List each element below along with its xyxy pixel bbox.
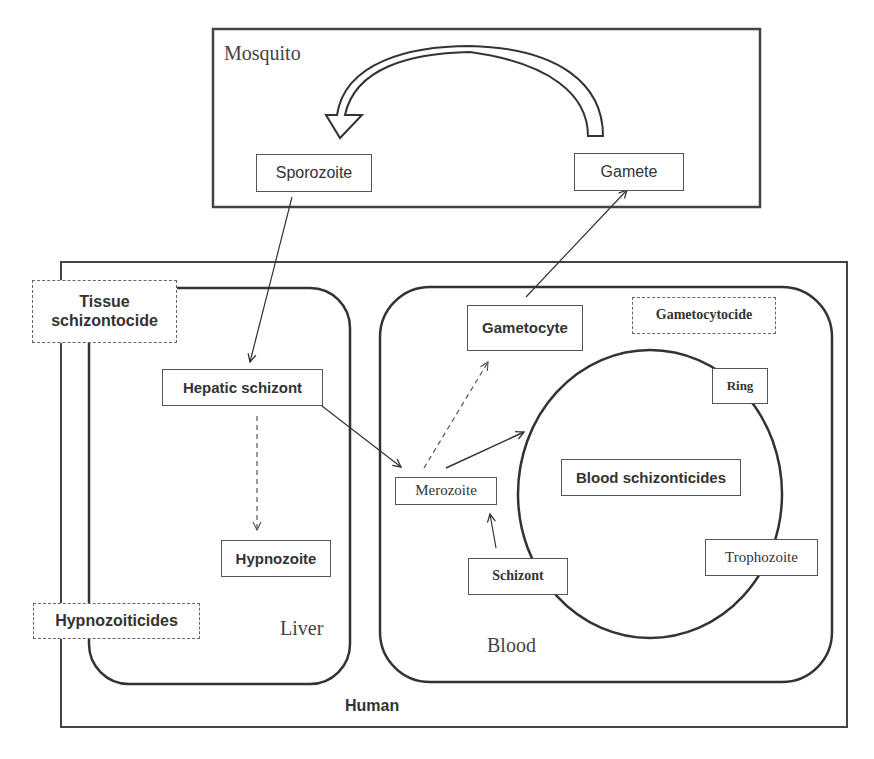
merozoite-node: Merozoite (395, 477, 497, 505)
blood-schizonticides-label: Blood schizonticides (561, 459, 741, 496)
block-arrow-icon (326, 46, 603, 138)
gamete-node: Gamete (574, 153, 684, 191)
malaria-life-cycle-diagram: Mosquito Human Liver Blood Sporozoite Ga… (0, 0, 874, 759)
gametocyte-node: Gametocyte (467, 305, 583, 351)
trophozoite-node: Trophozoite (705, 539, 818, 576)
hypnozoiticides-label: Hypnozoiticides (33, 603, 200, 639)
sporozoite-node: Sporozoite (256, 154, 372, 192)
schizont-node: Schizont (468, 558, 568, 595)
liver-label: Liver (280, 617, 323, 640)
tissue-schizontocide-label: Tissue schizontocide (32, 280, 177, 343)
hypnozoite-node: Hypnozoite (221, 540, 331, 577)
mosquito-label: Mosquito (224, 42, 301, 65)
blood-label: Blood (487, 634, 536, 657)
hepatic-schizont-node: Hepatic schizont (162, 369, 323, 406)
ring-node: Ring (712, 368, 768, 404)
gametocytocide-label: Gametocytocide (632, 297, 776, 334)
human-label: Human (345, 697, 399, 715)
